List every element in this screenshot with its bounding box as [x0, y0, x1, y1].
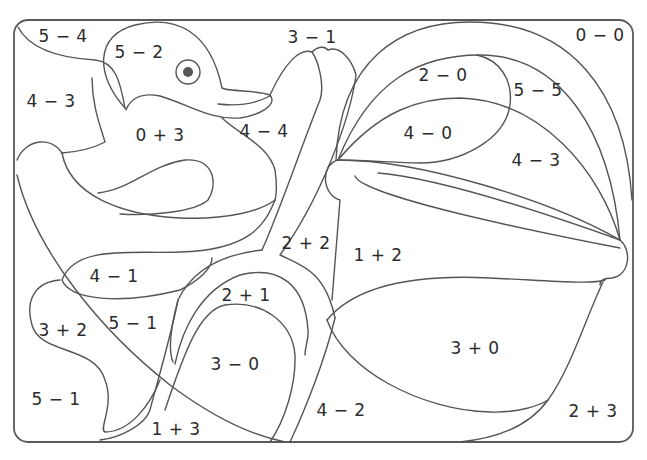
region-label-19[interactable]: 3 − 0: [210, 354, 259, 374]
duck-body-lower: [62, 153, 275, 218]
region-label-22[interactable]: 2 + 3: [568, 401, 617, 421]
region-label-11[interactable]: 4 − 3: [511, 150, 560, 170]
region-label-20[interactable]: 5 − 1: [31, 389, 80, 409]
region-label-4[interactable]: 0 − 0: [575, 25, 624, 45]
region-label-14[interactable]: 4 − 1: [89, 266, 138, 286]
duck-bill: [218, 96, 270, 105]
region-label-16[interactable]: 3 + 2: [38, 320, 87, 340]
fork-outer-tine: [170, 250, 262, 362]
region-label-7[interactable]: 5 − 5: [513, 80, 562, 100]
region-label-5[interactable]: 4 − 3: [26, 91, 75, 111]
bucket-inner-arc: [338, 55, 620, 240]
line-art: [0, 0, 647, 460]
region-label-17[interactable]: 5 − 1: [108, 313, 157, 333]
duck-eye-pupil-icon: [183, 67, 193, 77]
region-label-2[interactable]: 5 − 2: [114, 42, 163, 62]
region-label-6[interactable]: 2 − 0: [418, 65, 467, 85]
bucket-rim-left: [325, 160, 340, 300]
blob-3plus2: [30, 280, 160, 432]
fork-handle-tip: [312, 47, 328, 52]
region-label-9[interactable]: 4 − 4: [239, 121, 288, 141]
region-label-13[interactable]: 1 + 2: [353, 245, 402, 265]
fork-handle-right: [280, 49, 356, 318]
region-label-8[interactable]: 0 + 3: [135, 125, 184, 145]
duck-neck-left: [62, 78, 105, 153]
coloring-page: 5 − 4 5 − 2 3 − 1 0 − 0 4 − 3 2 − 0 5 − …: [0, 0, 647, 460]
region-label-1[interactable]: 5 − 4: [38, 26, 87, 46]
region-label-23[interactable]: 1 + 3: [151, 419, 200, 439]
bucket-rim-top: [338, 160, 620, 240]
region-label-12[interactable]: 2 + 2: [281, 233, 330, 253]
bucket-body-bottom: [327, 320, 548, 412]
region-label-15[interactable]: 2 + 1: [221, 285, 270, 305]
region-label-3[interactable]: 3 − 1: [287, 27, 336, 47]
bucket-body-top: [327, 277, 605, 320]
fork-handle-left: [262, 51, 322, 250]
region-label-18[interactable]: 3 + 0: [450, 338, 499, 358]
duck-tail: [17, 142, 62, 160]
fork-right-tine: [290, 318, 335, 442]
region-label-10[interactable]: 4 − 0: [403, 123, 452, 143]
bucket-rim-inner: [378, 173, 620, 240]
region-label-21[interactable]: 4 − 2: [316, 400, 365, 420]
